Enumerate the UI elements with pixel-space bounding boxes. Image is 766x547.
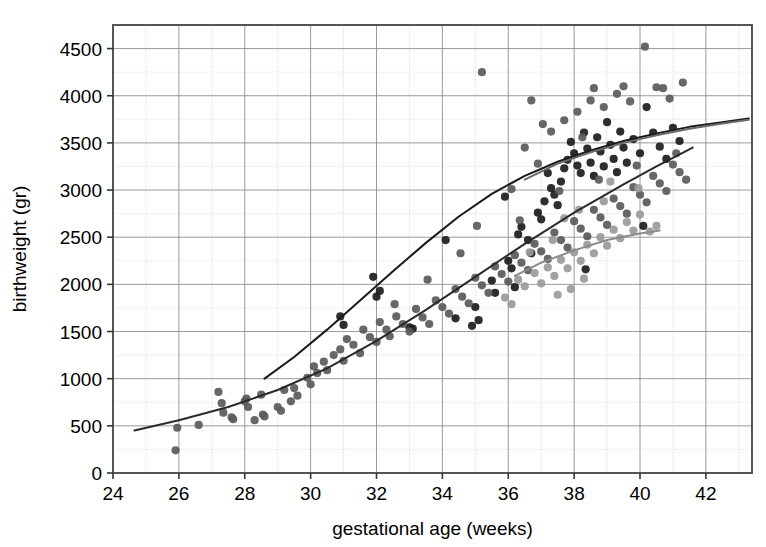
axes-frame bbox=[113, 25, 752, 473]
data-point bbox=[590, 249, 598, 257]
data-point bbox=[442, 236, 450, 244]
data-point bbox=[287, 397, 295, 405]
data-point bbox=[679, 78, 687, 86]
data-point bbox=[336, 345, 344, 353]
data-point bbox=[610, 155, 618, 163]
y-tick-label: 1500 bbox=[60, 322, 102, 343]
grid-lines bbox=[113, 25, 752, 473]
data-point bbox=[590, 84, 598, 92]
data-point bbox=[391, 300, 399, 308]
data-point bbox=[537, 215, 545, 223]
x-tick-label: 28 bbox=[234, 483, 255, 504]
data-point bbox=[596, 233, 604, 241]
data-point bbox=[669, 160, 677, 168]
data-point bbox=[603, 221, 611, 229]
chart-figure: 2426283032343638404205001000150020002500… bbox=[0, 0, 766, 547]
data-point bbox=[445, 310, 453, 318]
data-point bbox=[458, 293, 466, 301]
data-point bbox=[501, 193, 509, 201]
data-point bbox=[423, 276, 431, 284]
data-point bbox=[656, 179, 664, 187]
data-point bbox=[577, 169, 585, 177]
data-point bbox=[606, 177, 614, 185]
series-medium-gray-points bbox=[171, 43, 690, 455]
data-point bbox=[171, 446, 179, 454]
y-tick-label: 3500 bbox=[60, 133, 102, 154]
x-tick-label: 32 bbox=[366, 483, 387, 504]
data-point bbox=[557, 177, 565, 185]
data-point bbox=[244, 403, 252, 411]
data-point bbox=[583, 232, 591, 240]
data-point bbox=[623, 218, 631, 226]
data-point bbox=[573, 108, 581, 116]
data-point bbox=[218, 399, 226, 407]
data-point bbox=[468, 322, 476, 330]
data-point bbox=[587, 159, 595, 167]
data-point bbox=[675, 137, 683, 145]
data-point bbox=[277, 407, 285, 415]
data-point bbox=[593, 133, 601, 141]
x-tick-label: 36 bbox=[498, 483, 519, 504]
x-axis-label: gestational age (weeks) bbox=[332, 518, 533, 539]
data-point bbox=[567, 285, 575, 293]
data-point bbox=[507, 264, 515, 272]
data-point bbox=[260, 412, 268, 420]
y-tick-label: 4000 bbox=[60, 86, 102, 107]
data-point bbox=[623, 210, 631, 218]
data-point bbox=[547, 127, 555, 135]
data-point bbox=[643, 103, 651, 111]
y-tick-label: 3000 bbox=[60, 180, 102, 201]
data-point bbox=[659, 84, 667, 92]
data-point bbox=[577, 225, 585, 233]
x-tick-label: 40 bbox=[629, 483, 650, 504]
x-tick-label: 24 bbox=[102, 483, 124, 504]
data-point bbox=[504, 277, 512, 285]
data-point bbox=[359, 326, 367, 334]
data-point bbox=[425, 320, 433, 328]
data-point bbox=[488, 277, 496, 285]
data-point bbox=[641, 43, 649, 51]
data-point bbox=[484, 289, 492, 297]
data-point bbox=[544, 263, 552, 271]
data-point bbox=[376, 318, 384, 326]
data-point bbox=[636, 210, 644, 218]
data-point bbox=[539, 120, 547, 128]
data-point bbox=[438, 303, 446, 311]
data-point bbox=[229, 415, 237, 423]
data-point bbox=[307, 380, 315, 388]
data-point bbox=[570, 217, 578, 225]
data-point bbox=[626, 97, 634, 105]
data-point bbox=[540, 197, 548, 205]
data-point bbox=[666, 94, 674, 102]
data-point bbox=[521, 282, 529, 290]
data-point bbox=[613, 168, 621, 176]
data-point bbox=[633, 161, 641, 169]
data-point bbox=[563, 264, 571, 272]
plot-frame bbox=[113, 25, 752, 473]
data-point bbox=[613, 90, 621, 98]
data-point bbox=[293, 392, 301, 400]
data-point bbox=[587, 96, 595, 104]
data-point bbox=[560, 116, 568, 124]
data-point bbox=[636, 149, 644, 157]
x-tick-label: 38 bbox=[564, 483, 585, 504]
data-point bbox=[339, 321, 347, 329]
data-point bbox=[320, 358, 328, 366]
trend-curves-layer bbox=[134, 118, 748, 430]
x-tick-label: 30 bbox=[300, 483, 321, 504]
data-point bbox=[603, 118, 611, 126]
x-tick-label: 34 bbox=[432, 483, 454, 504]
data-point bbox=[639, 222, 647, 230]
data-point bbox=[537, 247, 545, 255]
y-tick-label: 0 bbox=[91, 463, 102, 484]
data-point bbox=[392, 312, 400, 320]
data-point bbox=[610, 194, 618, 202]
data-point bbox=[595, 176, 603, 184]
data-point bbox=[549, 236, 557, 244]
y-tick-label: 2500 bbox=[60, 227, 102, 248]
data-point bbox=[521, 144, 529, 152]
data-point bbox=[349, 341, 357, 349]
x-tick-label: 42 bbox=[695, 483, 716, 504]
data-point bbox=[514, 230, 522, 238]
data-point bbox=[507, 185, 515, 193]
